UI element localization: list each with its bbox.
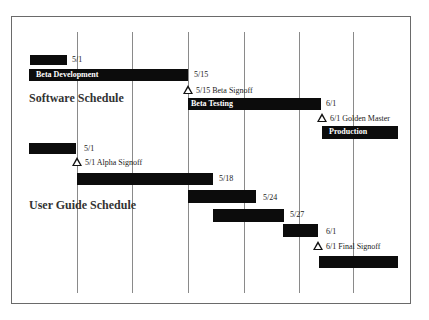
milestone-label: 6/1 Golden Master [330,114,390,123]
milestone: 6/1 Golden Master [317,113,390,124]
gantt-bar [29,143,76,154]
gridline [299,32,300,293]
bar-end-label: 6/1 [326,99,336,109]
milestone-label: 6/1 Final Signoff [326,242,381,251]
gridline [244,32,245,293]
gantt-bar [30,55,67,65]
bar-end-label: 5/15 [194,70,208,80]
bar-end-label: 5/24 [263,193,277,203]
milestone-label: 5/1 Alpha Signoff [85,158,142,167]
milestone: 5/15 Beta Signoff [183,85,253,96]
milestone-label: 5/15 Beta Signoff [196,86,253,95]
triangle-milestone-icon [313,241,323,250]
milestone: 5/1 Alpha Signoff [72,157,142,168]
bar-end-label: 5/18 [219,174,233,184]
section-title-software: Software Schedule [29,91,124,106]
gridline [353,32,354,293]
triangle-milestone-icon [317,113,327,122]
gantt-bar-beta-testing: Beta Testing [188,98,321,110]
bar-end-label: 5/1 [84,144,94,154]
milestone: 6/1 Final Signoff [313,241,381,252]
gantt-bar [77,173,213,185]
bar-end-label: 5/27 [290,210,304,220]
gantt-bar [283,224,318,237]
gantt-bar [319,256,398,268]
gridline [188,32,189,293]
triangle-milestone-icon [183,85,193,94]
gantt-bar [188,190,256,203]
bar-end-label: 6/1 [326,227,336,237]
gantt-bar-production: Production [322,126,398,139]
gantt-bar-beta-development: Beta Development [29,69,188,81]
triangle-milestone-icon [72,157,82,166]
section-title-user-guide: User Guide Schedule [29,198,136,213]
gantt-bar [213,209,284,222]
bar-end-label: 5/1 [72,55,82,65]
